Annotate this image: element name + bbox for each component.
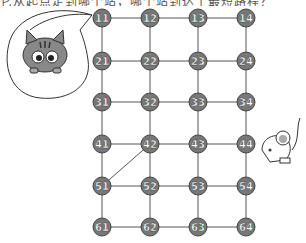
svg-text:41: 41 (95, 139, 109, 150)
node-11: 11 (93, 9, 111, 27)
node-12: 12 (141, 9, 159, 27)
svg-text:64: 64 (239, 222, 253, 233)
svg-text:31: 31 (95, 97, 109, 108)
grid-diagram: 1112131421222324313233344142434451525354… (0, 0, 306, 243)
node-21: 21 (93, 52, 111, 70)
svg-text:12: 12 (143, 13, 157, 24)
svg-text:24: 24 (239, 56, 253, 67)
svg-text:11: 11 (95, 13, 109, 24)
node-23: 23 (189, 52, 207, 70)
svg-text:54: 54 (239, 181, 253, 192)
node-34: 34 (237, 93, 255, 111)
node-41: 41 (93, 135, 111, 153)
node-42: 42 (141, 135, 159, 153)
svg-text:34: 34 (239, 97, 253, 108)
node-52: 52 (141, 177, 159, 195)
node-53: 53 (189, 177, 207, 195)
node-44: 44 (237, 135, 255, 153)
node-43: 43 (189, 135, 207, 153)
svg-text:14: 14 (239, 13, 253, 24)
svg-text:22: 22 (143, 56, 157, 67)
node-32: 32 (141, 93, 159, 111)
svg-text:23: 23 (191, 56, 205, 67)
svg-text:61: 61 (95, 222, 109, 233)
node-14: 14 (237, 9, 255, 27)
node-31: 31 (93, 93, 111, 111)
mouse-icon (262, 118, 300, 163)
svg-text:53: 53 (191, 181, 205, 192)
node-51: 51 (93, 177, 111, 195)
node-64: 64 (237, 218, 255, 236)
node-13: 13 (189, 9, 207, 27)
svg-text:52: 52 (143, 181, 157, 192)
svg-text:21: 21 (95, 56, 109, 67)
svg-text:62: 62 (143, 222, 157, 233)
node-62: 62 (141, 218, 159, 236)
svg-text:51: 51 (95, 181, 109, 192)
node-54: 54 (237, 177, 255, 195)
node-61: 61 (93, 218, 111, 236)
svg-text:32: 32 (143, 97, 157, 108)
node-33: 33 (189, 93, 207, 111)
node-63: 63 (189, 218, 207, 236)
svg-text:44: 44 (239, 139, 253, 150)
node-22: 22 (141, 52, 159, 70)
svg-text:43: 43 (191, 139, 205, 150)
svg-text:42: 42 (143, 139, 157, 150)
svg-text:13: 13 (191, 13, 205, 24)
svg-text:33: 33 (191, 97, 205, 108)
node-24: 24 (237, 52, 255, 70)
svg-text:63: 63 (191, 222, 205, 233)
